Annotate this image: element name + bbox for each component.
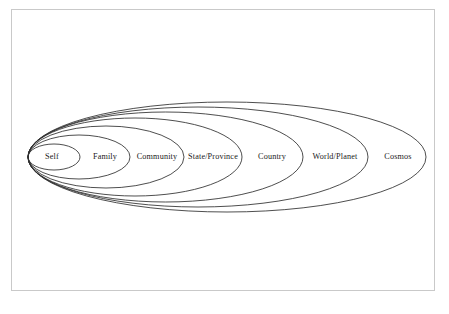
- sphere-label-family: Family: [93, 152, 118, 161]
- sphere-label-community: Community: [137, 152, 178, 161]
- sphere-label-cosmos: Cosmos: [384, 152, 411, 161]
- sphere-label-self: Self: [45, 152, 59, 161]
- sphere-label-world-planet: World/Planet: [313, 152, 358, 161]
- label-layer: SelfFamilyCommunityState/ProvinceCountry…: [45, 152, 412, 161]
- diagram-page: SelfFamilyCommunityState/ProvinceCountry…: [0, 0, 449, 314]
- nested-ellipses-diagram: SelfFamilyCommunityState/ProvinceCountry…: [0, 0, 449, 314]
- sphere-label-state-province: State/Province: [188, 152, 238, 161]
- sphere-label-country: Country: [258, 152, 287, 161]
